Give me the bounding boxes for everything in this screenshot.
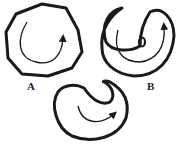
arrow-icon [20, 22, 63, 63]
oval-icon [139, 38, 145, 47]
arrow-icon [78, 106, 114, 122]
shape-b [102, 8, 174, 76]
diagram-canvas [0, 0, 178, 150]
shape-c [54, 81, 127, 139]
shape-a [6, 4, 82, 76]
label-b: B [147, 80, 154, 92]
label-a: A [27, 80, 35, 92]
